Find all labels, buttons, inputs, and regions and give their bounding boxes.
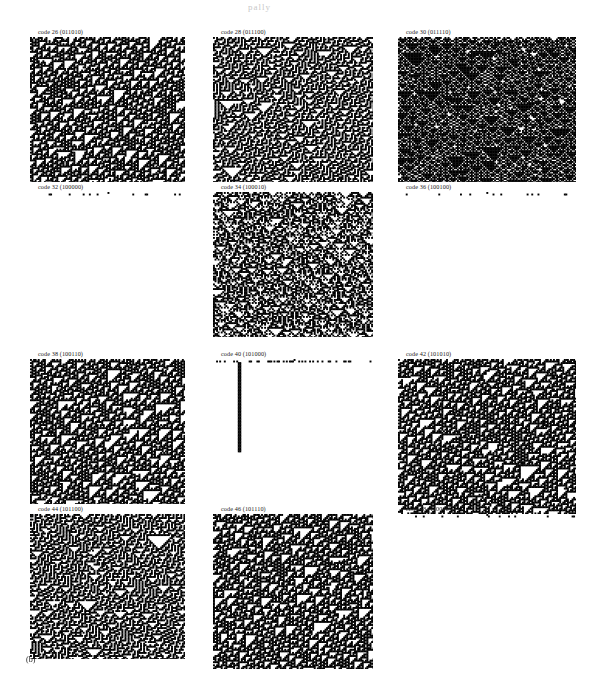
ca-panel-caption: code 32 (100000) <box>38 183 185 191</box>
ca-panel-code-44: code 44 (101100) <box>30 505 185 659</box>
ca-panel-caption: code 46 (101110) <box>221 505 373 513</box>
ca-panel-caption: code 42 (101010) <box>406 350 576 358</box>
ca-panel-caption: code 38 (100110) <box>38 350 185 358</box>
ca-panel-code-46: code 46 (101110) <box>213 505 373 669</box>
ca-panel-caption: code 30 (011110) <box>406 28 576 36</box>
ca-panel-caption: code 26 (011010) <box>38 28 185 36</box>
ca-panel-caption: code 44 (101100) <box>38 505 185 513</box>
ca-panel-code-40: code 40 (101000) <box>213 350 373 504</box>
ca-spacetime-diagram <box>398 514 576 659</box>
ca-panel-caption: code 40 (101000) <box>221 350 373 358</box>
ca-panel-code-28: code 28 (011100) <box>213 28 373 182</box>
ca-spacetime-diagram <box>398 359 576 514</box>
ca-spacetime-diagram <box>213 359 373 504</box>
ca-panel-code-30: code 30 (011110) <box>398 28 576 182</box>
figure-subfigure-label: (b) <box>26 655 35 664</box>
ca-spacetime-diagram <box>30 37 185 182</box>
ca-spacetime-diagram <box>30 192 185 337</box>
ca-panel-caption: code 36 (100100) <box>406 183 576 191</box>
ca-panel-code-32: code 32 (100000) <box>30 183 185 337</box>
ca-panel-caption: code 48 (110000) <box>406 505 576 513</box>
figure-page: pally code 26 (011010)code 28 (011100)co… <box>0 0 610 690</box>
ca-panel-caption: code 34 (100010) <box>221 183 373 191</box>
ca-panel-code-42: code 42 (101010) <box>398 350 576 514</box>
ca-spacetime-diagram <box>213 514 373 669</box>
ca-spacetime-diagram <box>398 37 576 182</box>
page-top-artifact: pally <box>248 2 296 12</box>
ca-panel-code-26: code 26 (011010) <box>30 28 185 182</box>
ca-panel-code-36: code 36 (100100) <box>398 183 576 337</box>
ca-spacetime-diagram <box>30 514 185 659</box>
ca-spacetime-diagram <box>398 192 576 337</box>
cellular-automata-panel-grid: code 26 (011010)code 28 (011100)code 30 … <box>0 18 610 673</box>
ca-panel-code-34: code 34 (100010) <box>213 183 373 337</box>
ca-panel-caption: code 28 (011100) <box>221 28 373 36</box>
ca-panel-code-38: code 38 (100110) <box>30 350 185 504</box>
ca-spacetime-diagram <box>213 192 373 337</box>
ca-spacetime-diagram <box>30 359 185 504</box>
ca-spacetime-diagram <box>213 37 373 182</box>
ca-panel-code-48: code 48 (110000) <box>398 505 576 659</box>
